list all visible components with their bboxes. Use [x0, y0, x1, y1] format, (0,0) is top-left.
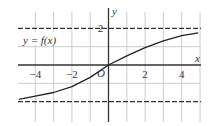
x-axis-label: x	[194, 52, 200, 64]
x-tick-labels: −4−224	[29, 68, 185, 80]
x-tick-label: −2	[66, 68, 78, 80]
function-label: y = f(x)	[22, 34, 56, 47]
x-tick-label: 2	[142, 68, 148, 80]
y-axis-label: y	[111, 5, 117, 17]
y-tick-label: 2	[98, 22, 104, 34]
x-tick-label: −4	[29, 68, 41, 80]
origin-label: O	[97, 67, 105, 79]
x-tick-label: 4	[179, 68, 185, 80]
y-tick-labels: 2	[98, 22, 104, 34]
function-graph: y x O y = f(x) −4−224 2	[0, 0, 214, 126]
